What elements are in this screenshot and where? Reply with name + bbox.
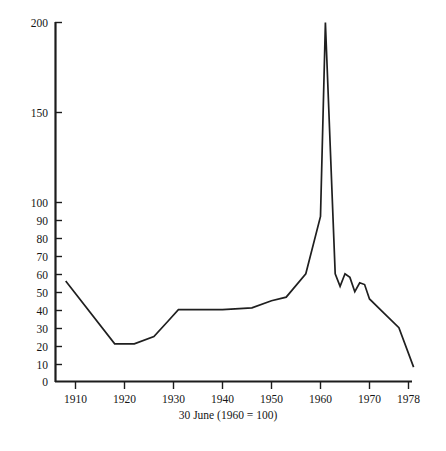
x-tick-label-1920: 1920 xyxy=(113,393,136,405)
axes-group xyxy=(55,22,412,382)
data-series-line xyxy=(66,23,414,368)
x-tick-labels: 1910 1920 1930 1940 1950 1960 1970 1978 xyxy=(64,393,420,405)
y-tick-label-0: 0 xyxy=(42,376,48,388)
y-tick-label-150: 150 xyxy=(31,107,49,119)
x-axis-caption: 30 June (1960 = 100) xyxy=(179,409,278,422)
line-chart: 200 150 100 90 80 70 60 50 40 30 20 10 0 xyxy=(0,0,446,451)
y-tick-label-80: 80 xyxy=(37,233,49,245)
x-tick-marks xyxy=(76,382,409,389)
y-tick-labels: 200 150 100 90 80 70 60 50 40 30 20 10 0 xyxy=(31,17,49,389)
y-tick-label-200: 200 xyxy=(31,17,49,29)
y-tick-label-90: 90 xyxy=(37,215,49,227)
y-tick-label-20: 20 xyxy=(37,341,49,353)
y-tick-label-60: 60 xyxy=(37,269,49,281)
y-tick-label-40: 40 xyxy=(37,305,49,317)
y-tick-label-100: 100 xyxy=(31,197,49,209)
x-tick-label-1978: 1978 xyxy=(397,393,420,405)
x-tick-label-1960: 1960 xyxy=(309,393,332,405)
x-tick-label-1930: 1930 xyxy=(162,393,185,405)
figure-root: 200 150 100 90 80 70 60 50 40 30 20 10 0 xyxy=(0,0,446,451)
y-tick-label-30: 30 xyxy=(37,323,49,335)
x-tick-label-1970: 1970 xyxy=(358,393,381,405)
y-tick-label-50: 50 xyxy=(37,287,49,299)
y-tick-label-70: 70 xyxy=(37,251,49,263)
x-tick-label-1910: 1910 xyxy=(64,393,87,405)
x-tick-label-1950: 1950 xyxy=(260,393,283,405)
y-tick-label-10: 10 xyxy=(37,359,49,371)
x-tick-label-1940: 1940 xyxy=(211,393,234,405)
